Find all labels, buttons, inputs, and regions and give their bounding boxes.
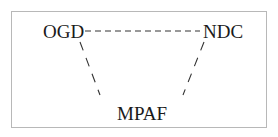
node-mpaf: MPAF bbox=[117, 104, 167, 123]
edge-ndc-mpaf bbox=[183, 42, 204, 95]
node-ndc: NDC bbox=[203, 22, 243, 41]
edge-ogd-mpaf bbox=[80, 42, 100, 95]
node-ogd: OGD bbox=[43, 22, 84, 41]
